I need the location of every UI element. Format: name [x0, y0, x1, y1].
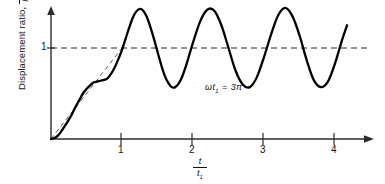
- y-axis-label-text: Displacement ratio,: [16, 7, 27, 90]
- x-tick-label-3: 3: [260, 145, 266, 155]
- y-axis-arrowhead: [47, 6, 55, 15]
- y-axis-fraction-denominator: Po/k: [20, 0, 32, 4]
- y-axis-denominator-main: P: [20, 0, 30, 2]
- y-axis-label-fraction: u Po/k: [10, 0, 32, 4]
- x-tick-label-4: 4: [331, 145, 337, 155]
- x-tick-label-2: 2: [189, 145, 195, 155]
- x-axis-fraction-numerator: t: [196, 157, 205, 167]
- annotation-value: 3π: [231, 82, 243, 92]
- x-axis-fraction-denominator: t1: [194, 168, 206, 180]
- y-axis-label: Displacement ratio, u Po/k: [8, 0, 34, 90]
- annotation-equals: =: [219, 82, 231, 92]
- x-axis-arrowhead: [364, 135, 374, 143]
- x-tick-label-1: 1: [118, 145, 124, 155]
- annotation-symbol: ωt: [205, 82, 215, 92]
- ramp-input-series: [51, 48, 122, 139]
- chart-figure: Displacement ratio, u Po/k 1 1 2 3 4 t t…: [0, 0, 385, 184]
- x-axis-label: t t1: [193, 157, 207, 180]
- x-axis-denominator-subscript: 1: [200, 174, 203, 180]
- dynamic-response-series: [51, 8, 347, 139]
- chart-annotation: ωt1=3π: [205, 83, 243, 94]
- y-tick-label-1: 1: [41, 42, 47, 52]
